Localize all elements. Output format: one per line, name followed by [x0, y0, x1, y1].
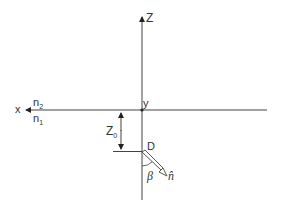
upper-medium-label: n2 [33, 97, 43, 108]
depth-label: Z0 [106, 125, 117, 137]
angle-label: β [147, 170, 153, 182]
dipole-arrow [142, 150, 167, 176]
dipole-label: D [147, 141, 155, 152]
beta-arc [142, 162, 152, 166]
x-axis-label: x [15, 104, 21, 115]
dipole-interface-diagram: Z x y n2 n1 Z0 D β n̂ [0, 0, 281, 209]
normal-vector-label: n̂ [168, 170, 174, 182]
z-axis-label: Z [146, 12, 153, 24]
lower-medium-label: n1 [33, 113, 43, 124]
y-axis-label: y [143, 98, 149, 109]
